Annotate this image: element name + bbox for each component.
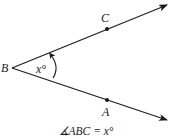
caption: ∡ABC = x°	[59, 125, 114, 137]
point-c	[105, 27, 109, 31]
vertex-label-b: B	[1, 61, 9, 75]
ray-bc	[12, 5, 167, 68]
angle-arc-arrow-icon	[51, 55, 56, 78]
point-label-c: C	[101, 11, 110, 25]
point-label-a: A	[101, 105, 110, 119]
angle-label: x°	[35, 62, 46, 76]
angle-diagram: B C A x° ∡ABC = x°	[0, 0, 173, 139]
point-a	[105, 98, 109, 102]
